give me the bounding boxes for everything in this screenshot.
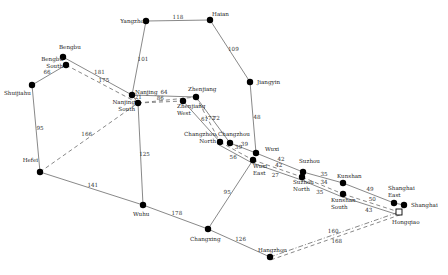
station-label: Kunshan — [337, 173, 362, 179]
edge-weight-label: 126 — [235, 236, 246, 242]
edge-weight-label: 39 — [241, 141, 249, 147]
edge-weight-label: 27 — [272, 172, 280, 178]
station-label: Suzhou — [299, 158, 320, 164]
edge-weight-label: 175 — [99, 77, 110, 83]
edge-weight-label: 95 — [36, 125, 44, 131]
station-label: South — [331, 204, 348, 210]
edge-weight-label: 181 — [94, 69, 105, 75]
edge-weight-label: 61 — [201, 116, 208, 122]
station-label: Kunshan — [331, 197, 356, 203]
station-label: North — [293, 186, 310, 192]
edge-Bengbu-Nanjing — [63, 57, 132, 95]
station-label: Hefei — [23, 157, 39, 163]
station-node-NanjingSouth — [135, 100, 141, 106]
edge-weight-label: 35 — [316, 189, 324, 195]
station-node-Hefei — [37, 169, 43, 175]
station-label: West — [177, 110, 191, 116]
station-label: Changxing — [190, 236, 221, 243]
edge-weight-label: 178 — [172, 210, 183, 216]
station-node-Shanghai — [401, 202, 407, 208]
station-node-Shuijiahu — [29, 82, 35, 88]
station-label: Haian — [212, 11, 229, 17]
station-label: Bengbu — [59, 44, 81, 51]
edge-weight-label: 34 — [320, 179, 328, 185]
station-label: Shanghai — [411, 202, 438, 209]
edge-weight-label: 42 — [275, 162, 283, 168]
station-node-Wuxi — [253, 150, 259, 156]
station-label: East — [253, 170, 266, 176]
station-label: Shuijiahu — [4, 90, 31, 97]
station-label: Yangzho — [119, 18, 144, 25]
station-node-Kunshan — [340, 180, 346, 186]
edge-weight-label: 101 — [138, 56, 149, 62]
station-node-ChangzhouNorth — [217, 139, 223, 145]
station-node-ShanghaiEast — [391, 200, 397, 206]
edge-Yangzhou-Haian — [146, 20, 210, 21]
edge-weight-label: 141 — [87, 182, 98, 188]
edge-Wuhu-Changxing — [143, 205, 208, 229]
rail-network-diagram: 1181091014866951811756421861661257272613… — [0, 0, 448, 275]
edge-weights-layer: 1181091014866951811756421861661257272613… — [36, 14, 376, 245]
edge-weight-label: 35 — [320, 171, 328, 177]
station-node-Zhenjiang — [193, 94, 199, 100]
edge-weight-label: 72 — [208, 115, 216, 121]
station-label: South — [46, 63, 63, 69]
edge-Hangzhou-Hongqiao — [270, 212, 399, 257]
edge-weight-label: 118 — [173, 14, 184, 20]
edge-Hefei-Wuhu — [40, 172, 143, 205]
edge-weight-label: 49 — [366, 186, 374, 192]
station-node-Changzhou — [227, 140, 233, 146]
edge-weight-label: 166 — [81, 131, 92, 137]
station-label: Hangzhou — [258, 247, 287, 254]
station-node-Hongqiao — [396, 209, 402, 215]
edge-weight-label: 39 — [235, 144, 243, 150]
edge-weight-label: 160 — [328, 228, 339, 234]
edge-weight-label: 125 — [139, 151, 150, 157]
station-label: Changzhou — [184, 131, 216, 138]
station-label: Wuxi — [265, 146, 279, 152]
station-label: Zhenjiang — [188, 86, 217, 93]
station-node-Haian — [207, 17, 213, 23]
station-node-BengbuSouth — [63, 62, 69, 68]
station-label: East — [388, 192, 401, 198]
edge-Hefei-NanjingSouth — [40, 103, 138, 172]
station-label: Hongqiao — [392, 219, 420, 226]
edge-weight-label: 95 — [224, 189, 232, 195]
station-label: Zhenjiang — [177, 103, 206, 110]
edge-weight-label: 48 — [253, 114, 261, 120]
station-label: Jiangyin — [256, 79, 280, 86]
station-label: Changzhou — [218, 131, 250, 138]
edge-weight-label: 109 — [228, 46, 239, 52]
station-label: Wuhu — [133, 211, 150, 217]
station-label: Shanghai — [388, 185, 415, 192]
edge-weight-label: 86 — [157, 95, 165, 101]
station-label: Suzhou — [293, 179, 314, 185]
edge-weight-label: 50 — [369, 196, 377, 202]
edge-weight-label: 56 — [230, 154, 238, 160]
edge-weight-label: 168 — [331, 238, 342, 244]
station-node-Changxing — [205, 226, 211, 232]
station-label: Nanjing — [135, 89, 158, 96]
station-label: North — [199, 138, 216, 144]
nodes-layer — [29, 17, 407, 260]
station-node-Wuhu — [140, 202, 146, 208]
station-label: Bengbu — [41, 56, 63, 63]
station-node-Jiangyin — [247, 79, 253, 85]
station-label: Wuxi — [253, 163, 267, 169]
edge-weight-label: 43 — [365, 207, 373, 213]
edge-weight-label: 66 — [43, 69, 51, 75]
station-label: Nanjing — [112, 99, 135, 106]
station-label: South — [118, 106, 135, 112]
station-node-Hangzhou — [267, 254, 273, 260]
node-labels-layer: YangzhoHaianBengbuBengbuSouthShuijiahuNa… — [4, 11, 438, 254]
